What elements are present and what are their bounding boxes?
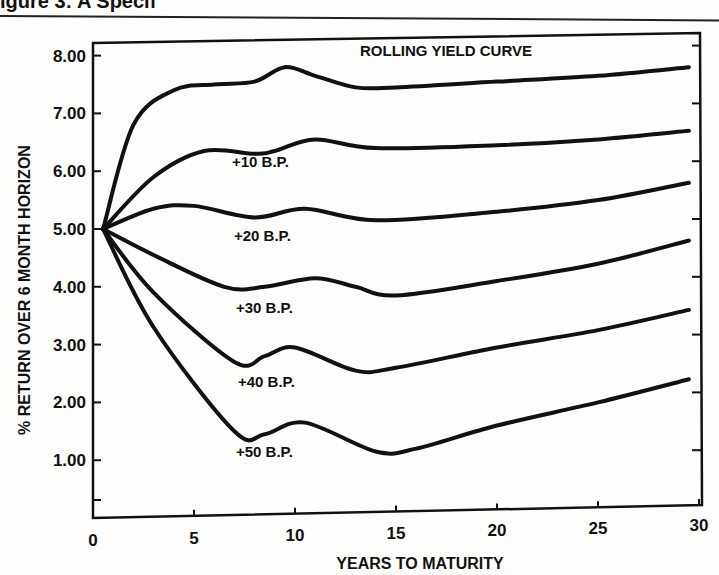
x-tick-label: 5	[189, 529, 198, 548]
y-axis-ticks: 1.002.003.004.005.006.007.008.00	[53, 46, 701, 500]
x-tick-label: 0	[88, 531, 97, 550]
x-tick-label: 20	[488, 521, 507, 540]
y-tick-label: 6.00	[53, 162, 86, 181]
series-label-1: +10 B.P.	[232, 153, 289, 170]
series-label-3: +30 B.P.	[236, 299, 293, 316]
series-line-2	[103, 183, 689, 229]
y-tick-label: 4.00	[53, 278, 86, 297]
y-tick-label: 1.00	[53, 451, 86, 470]
y-tick-label: 2.00	[53, 393, 86, 412]
series-label-2: +20 B.P.	[234, 227, 291, 244]
series-label-0: ROLLING YIELD CURVE	[360, 42, 532, 59]
y-tick-label: 8.00	[53, 47, 86, 66]
x-tick-label: 10	[286, 526, 305, 545]
series-label-5: +50 B.P.	[236, 443, 293, 460]
y-tick-label: 3.00	[53, 336, 86, 355]
plot-frame	[93, 33, 702, 518]
y-tick-label: 7.00	[53, 104, 86, 123]
series-curves	[103, 67, 689, 454]
x-tick-label: 15	[387, 524, 406, 543]
line-chart: 1.002.003.004.005.006.007.008.00 0510152…	[0, 0, 719, 575]
series-labels: ROLLING YIELD CURVE+10 B.P.+20 B.P.+30 B…	[232, 42, 532, 460]
y-axis-title: % RETURN OVER 6 MONTH HORIZON	[16, 145, 33, 435]
x-axis-title: YEARS TO MATURITY	[336, 555, 504, 572]
plot-border	[93, 33, 702, 518]
x-tick-label: 30	[690, 516, 709, 535]
series-line-1	[103, 131, 689, 229]
series-line-4	[103, 229, 689, 372]
x-tick-label: 25	[589, 519, 608, 538]
y-tick-label: 5.00	[53, 220, 86, 239]
series-label-4: +40 B.P.	[238, 373, 295, 390]
series-line-3	[103, 229, 689, 296]
